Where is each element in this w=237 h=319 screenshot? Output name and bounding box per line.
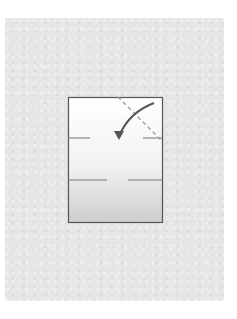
paper-sheet [69,98,163,223]
origami-diagram [0,0,237,319]
